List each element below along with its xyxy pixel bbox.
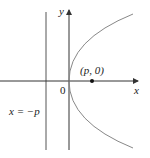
origin-label: 0 xyxy=(60,84,66,96)
y-axis-label: y xyxy=(58,5,64,17)
focus-point xyxy=(90,79,94,83)
directrix-label: x = −p xyxy=(8,105,40,117)
parabola-diagram: y x 0 (p, 0) x = −p xyxy=(0,0,150,158)
x-axis-label: x xyxy=(133,84,139,96)
focus-label: (p, 0) xyxy=(80,64,104,77)
